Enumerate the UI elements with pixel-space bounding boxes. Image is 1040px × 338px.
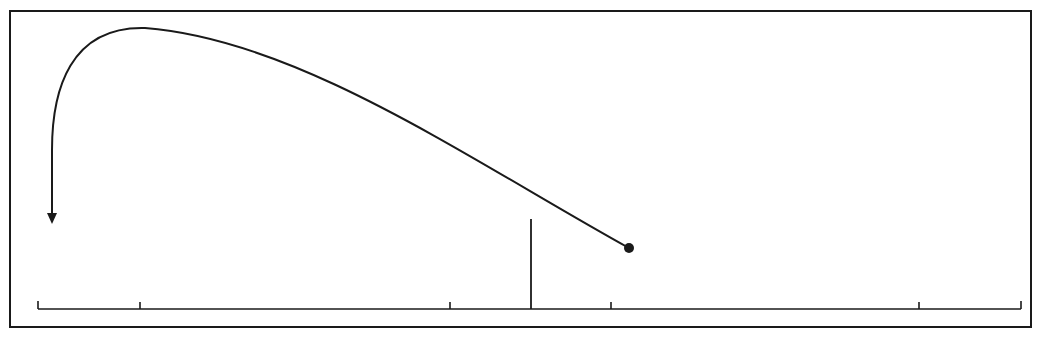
arrowhead-icon: [47, 213, 57, 224]
start-point-dot: [624, 243, 634, 253]
horizontal-scale: [38, 301, 1021, 309]
trajectory-curve: [52, 28, 629, 248]
diagram-frame: [10, 11, 1031, 327]
trajectory-diagram: [0, 0, 1040, 338]
